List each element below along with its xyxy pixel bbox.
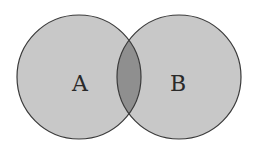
venn-diagram: A B xyxy=(0,0,256,145)
set-a-label: A xyxy=(71,71,89,96)
set-b-label: B xyxy=(170,71,186,96)
